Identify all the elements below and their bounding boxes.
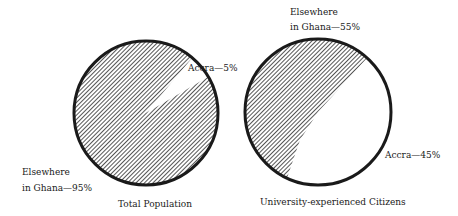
left-elsewhere-line2: in Ghana—95%: [22, 182, 92, 195]
right-elsewhere-line1: Elsewhere: [290, 6, 338, 19]
right-elsewhere-line2: in Ghana—55%: [290, 21, 360, 34]
right-accra-label: Accra—45%: [385, 149, 440, 162]
left-accra-label: Accra—5%: [188, 62, 238, 75]
right-chart-title: University-experienced Citizens: [260, 196, 406, 209]
pie-university-citizens: [245, 39, 391, 185]
left-elsewhere-line1: Elsewhere: [22, 166, 70, 179]
left-chart-title: Total Population: [118, 198, 192, 211]
